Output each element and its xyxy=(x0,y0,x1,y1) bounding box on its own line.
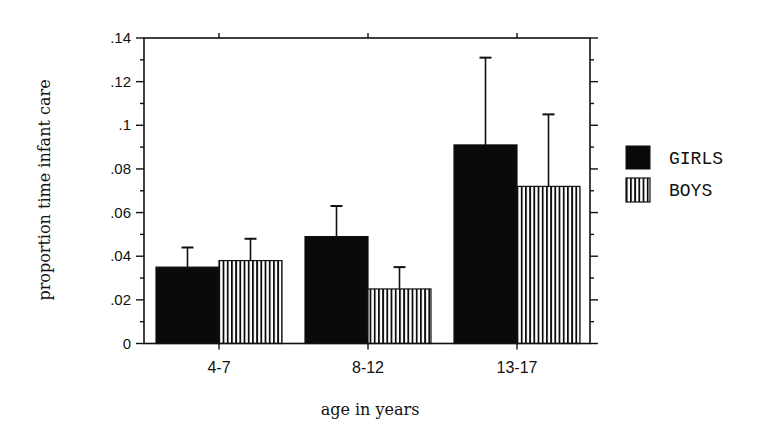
error-bar xyxy=(331,206,343,237)
error-bar xyxy=(394,267,406,289)
y-axis-title: proportion time infant care xyxy=(35,79,54,300)
bar-chart: 0.02.04.06.08.1.12.14 4-78-1213-17 age i… xyxy=(0,0,763,445)
y-tick-label: 0 xyxy=(123,335,131,352)
y-tick-label: .14 xyxy=(110,29,131,46)
bar-boys-4-7 xyxy=(219,261,282,344)
legend-item-boys: BOYS xyxy=(626,178,712,202)
y-tick-label: .04 xyxy=(110,247,131,264)
error-bar xyxy=(245,239,257,261)
legend-swatch-solid xyxy=(626,146,650,169)
bars-layer xyxy=(156,145,580,344)
x-tick-label: 8-12 xyxy=(352,359,384,376)
bar-girls-4-7 xyxy=(156,267,219,343)
legend-item-girls: GIRLS xyxy=(626,146,723,169)
y-tick-label: .1 xyxy=(118,116,131,133)
error-bar xyxy=(480,58,492,145)
y-tick-label: .02 xyxy=(110,291,131,308)
y-tick-label: .06 xyxy=(110,204,131,221)
y-axis-left: 0.02.04.06.08.1.12.14 xyxy=(110,29,144,352)
bar-boys-8-12 xyxy=(368,289,431,344)
bar-girls-13-17 xyxy=(454,145,517,344)
bar-boys-13-17 xyxy=(517,186,580,343)
error-bar xyxy=(182,247,194,267)
y-tick-label: .08 xyxy=(110,160,131,177)
x-tick-label: 13-17 xyxy=(497,359,538,376)
y-axis-right xyxy=(590,38,598,344)
legend-label-girls: GIRLS xyxy=(669,149,723,169)
bar-girls-8-12 xyxy=(305,237,368,344)
legend-swatch-striped xyxy=(626,178,650,202)
y-tick-label: .12 xyxy=(110,73,131,90)
x-tick-label: 4-7 xyxy=(207,359,230,376)
legend-label-boys: BOYS xyxy=(669,181,712,201)
error-bar xyxy=(543,114,555,186)
legend: GIRLS BOYS xyxy=(626,146,723,202)
x-axis-title: age in years xyxy=(321,400,420,419)
